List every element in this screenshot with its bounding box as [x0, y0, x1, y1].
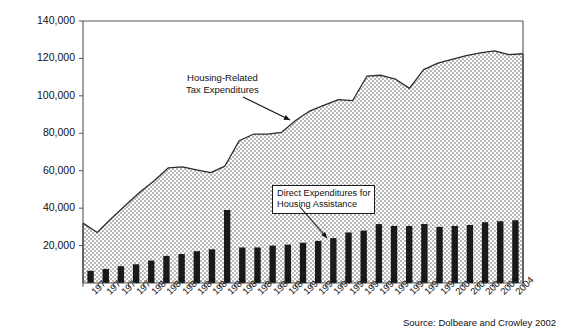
bar-1985 — [224, 210, 230, 283]
annotation-line-0: Direct Expenditures for — [277, 188, 370, 199]
annotation-direct-expenditures-for-housing-assistance: Direct Expenditures forHousing Assistanc… — [272, 185, 375, 214]
annotation-line-1: Housing Assistance — [277, 199, 370, 210]
y-tick-label-80,000: 80,000 — [13, 126, 75, 138]
bar-1976 — [87, 271, 93, 283]
y-tick-label-120,000: 120,000 — [13, 51, 75, 63]
annotation-housing-related-tax-expenditures: Housing-RelatedTax Expenditures — [186, 72, 259, 95]
y-tick-label-40,000: 40,000 — [13, 201, 75, 213]
y-tick-label-20,000: 20,000 — [13, 239, 75, 251]
annotation-line-0: Housing-Related — [186, 72, 259, 84]
annotation-line-1: Tax Expenditures — [186, 84, 259, 96]
source-note: Source: Dolbeare and Crowley 2002 — [403, 317, 556, 328]
chart-figure: Millions of 2002 Dollars20,00040,00060,0… — [0, 0, 574, 333]
y-tick-label-100,000: 100,000 — [13, 89, 75, 101]
y-tick-label-60,000: 60,000 — [13, 164, 75, 176]
y-tick-label-140,000: 140,000 — [13, 14, 75, 26]
